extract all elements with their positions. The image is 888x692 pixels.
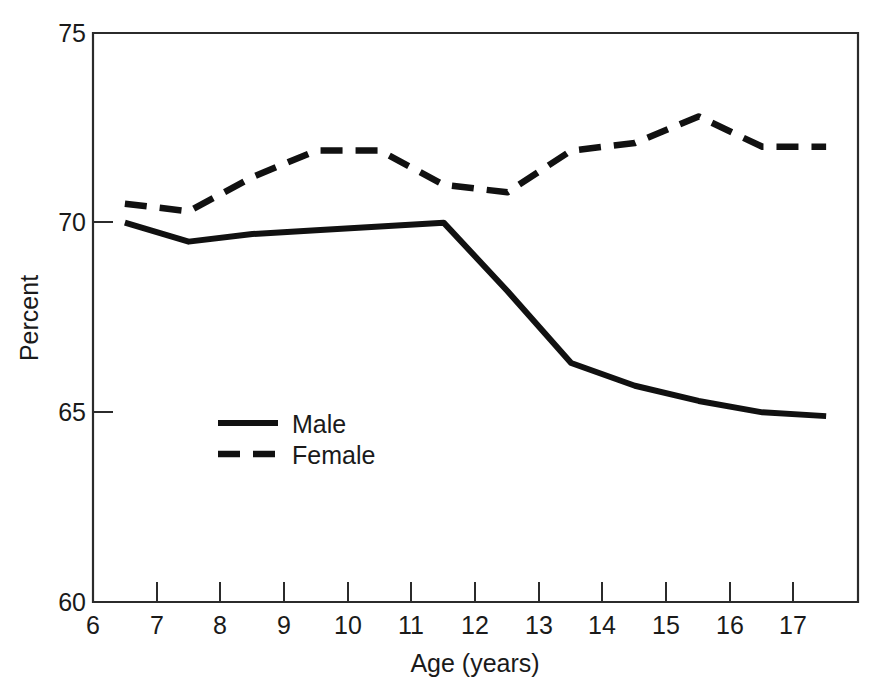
x-tick-label-13: 13 [525, 611, 553, 639]
y-tick-label-75: 75 [58, 19, 86, 47]
x-tick-label-10: 10 [334, 611, 362, 639]
y-tick-label-60: 60 [58, 588, 86, 616]
x-axis-tick-labels: 6 7 8 9 10 11 12 13 14 15 16 17 [86, 611, 807, 639]
x-tick-label-6: 6 [86, 611, 100, 639]
series-line-female [125, 116, 826, 211]
plot-border [93, 33, 858, 602]
line-chart: 75 70 65 60 6 7 8 9 10 11 [0, 0, 888, 692]
x-tick-label-9: 9 [277, 611, 291, 639]
x-tick-label-14: 14 [588, 611, 616, 639]
x-tick-label-16: 16 [716, 611, 744, 639]
x-axis-ticks [93, 582, 793, 602]
legend-label-female: Female [292, 441, 375, 469]
plot-frame [93, 33, 858, 602]
y-axis-ticks [93, 33, 113, 602]
y-tick-label-70: 70 [58, 208, 86, 236]
x-axis-title: Age (years) [410, 649, 539, 677]
y-axis-tick-labels: 75 70 65 60 [58, 19, 86, 616]
legend: Male Female [218, 410, 375, 469]
legend-label-male: Male [292, 410, 346, 438]
y-axis-title: Percent [15, 275, 43, 361]
series-line-male [125, 223, 826, 416]
y-tick-label-65: 65 [58, 398, 86, 426]
chart-container: 75 70 65 60 6 7 8 9 10 11 [0, 0, 888, 692]
x-tick-label-15: 15 [652, 611, 680, 639]
x-tick-label-17: 17 [779, 611, 807, 639]
x-tick-label-12: 12 [461, 611, 489, 639]
x-tick-label-7: 7 [150, 611, 164, 639]
x-tick-label-11: 11 [398, 611, 424, 639]
x-tick-label-8: 8 [213, 611, 227, 639]
